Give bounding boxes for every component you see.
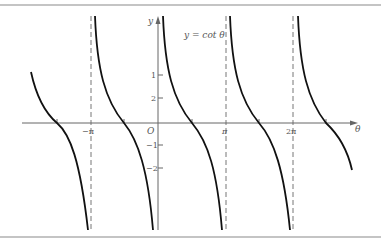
- y-tick-label-neg2: −2: [146, 164, 158, 173]
- y-tick-label-1: 1: [151, 71, 156, 80]
- origin-label: O: [147, 126, 155, 136]
- x-tick-label-2pi: 2π: [286, 127, 296, 136]
- curve-branch-5: [298, 16, 352, 170]
- curve-branch-1: [31, 72, 88, 230]
- y-tick-label-2: 2: [151, 94, 156, 103]
- function-label: y = cot θ: [183, 30, 225, 40]
- y-axis-arrow-icon: [156, 16, 161, 24]
- cot-graph: y θ O y = cot θ −π π 2π 1 2 −1 −2: [0, 0, 381, 242]
- x-tick-label-neg-pi: −π: [82, 127, 94, 136]
- x-tick-label-pi: π: [221, 127, 228, 136]
- x-axis-label: θ: [355, 124, 361, 134]
- y-axis-label: y: [147, 16, 154, 26]
- y-tick-label-neg1: −1: [146, 141, 158, 150]
